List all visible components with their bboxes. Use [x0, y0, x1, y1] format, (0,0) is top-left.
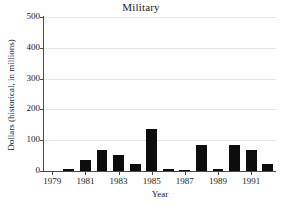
y-axis-tick-mark	[40, 109, 44, 110]
x-axis-tick-mark	[52, 172, 53, 175]
x-axis-line	[43, 171, 276, 172]
bar	[63, 169, 74, 171]
x-axis-tick-mark	[152, 172, 153, 175]
chart-figure: Military Dollars (historical, in million…	[0, 0, 282, 212]
x-axis-tick-mark	[119, 172, 120, 175]
bar	[97, 150, 108, 171]
y-axis-tick-mark	[40, 79, 44, 80]
x-axis-title: Year	[44, 189, 276, 199]
y-axis-tick-label: 0	[8, 166, 40, 175]
y-axis-tick-mark	[40, 17, 44, 18]
bar	[213, 169, 224, 171]
y-axis-tick-mark	[40, 171, 44, 172]
bar	[130, 164, 141, 171]
y-axis-tick-label: 500	[8, 12, 40, 21]
bar	[229, 145, 240, 171]
y-axis-tick-label: 100	[8, 135, 40, 144]
y-axis-tick-label: 400	[8, 43, 40, 52]
y-axis-tick-label: 200	[8, 104, 40, 113]
bar	[163, 169, 174, 171]
y-axis-tick-mark	[40, 140, 44, 141]
bar	[80, 160, 91, 171]
x-axis-tick-mark	[185, 172, 186, 175]
bar	[179, 170, 190, 171]
x-axis-tick-mark	[85, 172, 86, 175]
bar	[113, 155, 124, 171]
bar	[146, 129, 157, 171]
x-axis-tick-label: 1991	[231, 176, 271, 186]
bar	[196, 145, 207, 171]
bars-layer	[44, 17, 276, 171]
x-axis-tick-mark	[218, 172, 219, 175]
y-axis-tick-mark	[40, 48, 44, 49]
x-axis-tick-mark	[251, 172, 252, 175]
bar	[246, 150, 257, 171]
chart-title: Military	[0, 1, 282, 13]
bar	[262, 164, 273, 171]
y-axis-tick-label: 300	[8, 74, 40, 83]
